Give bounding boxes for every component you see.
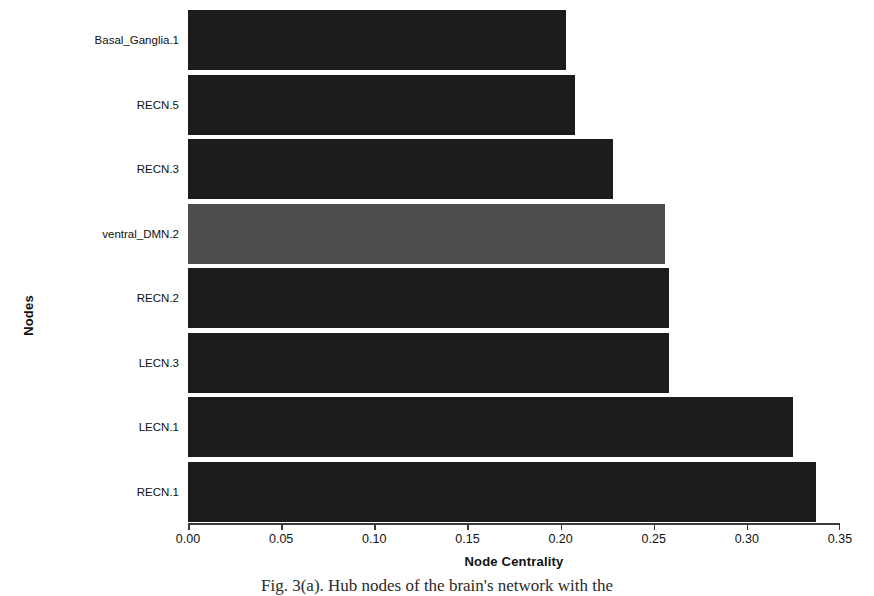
x-axis-tick xyxy=(839,523,841,530)
x-axis-title: Node Centrality xyxy=(188,554,840,569)
bar xyxy=(188,10,566,70)
x-axis-tick-label: 0.00 xyxy=(176,532,200,546)
bar xyxy=(188,75,575,135)
x-axis-tick-label: 0.25 xyxy=(642,532,666,546)
bar-row: RECN.2 xyxy=(188,268,840,328)
bar xyxy=(188,397,793,457)
x-axis-tick xyxy=(654,523,656,530)
category-label: RECN.5 xyxy=(137,75,179,135)
x-axis-tick xyxy=(561,523,563,530)
bar xyxy=(188,268,669,328)
bar xyxy=(188,139,613,199)
x-axis-tick-label: 0.10 xyxy=(362,532,386,546)
x-axis-tick-label: 0.15 xyxy=(455,532,479,546)
x-axis-tick-label: 0.35 xyxy=(828,532,852,546)
bar-row: RECN.5 xyxy=(188,75,840,135)
bar-row: LECN.1 xyxy=(188,397,840,457)
x-axis-tick-label: 0.05 xyxy=(269,532,293,546)
x-axis-tick-label: 0.30 xyxy=(735,532,759,546)
x-axis-line: 0.000.050.100.150.200.250.300.35 xyxy=(188,523,840,525)
category-label: Basal_Ganglia.1 xyxy=(95,10,179,70)
x-axis-tick xyxy=(467,523,469,530)
bar-row: RECN.3 xyxy=(188,139,840,199)
category-label: LECN.3 xyxy=(139,333,179,393)
x-axis-tick xyxy=(374,523,376,530)
bar xyxy=(188,333,669,393)
x-axis-tick xyxy=(188,523,190,530)
category-label: RECN.1 xyxy=(137,462,179,522)
figure-caption: Fig. 3(a). Hub nodes of the brain's netw… xyxy=(0,576,874,596)
x-axis-tick xyxy=(281,523,283,530)
category-label: RECN.3 xyxy=(137,139,179,199)
bar-row: LECN.3 xyxy=(188,333,840,393)
bar-row: RECN.1 xyxy=(188,462,840,522)
plot-area: Basal_Ganglia.1RECN.5RECN.3ventral_DMN.2… xyxy=(188,0,840,520)
category-label: RECN.2 xyxy=(137,268,179,328)
x-axis-tick-label: 0.20 xyxy=(548,532,572,546)
category-label: LECN.1 xyxy=(139,397,179,457)
x-axis-tick xyxy=(747,523,749,530)
bar xyxy=(188,204,665,264)
bar-row: Basal_Ganglia.1 xyxy=(188,10,840,70)
bar xyxy=(188,462,816,522)
y-axis-title: Nodes xyxy=(8,255,48,375)
category-label: ventral_DMN.2 xyxy=(102,204,179,264)
bar-row: ventral_DMN.2 xyxy=(188,204,840,264)
y-axis-title-text: Nodes xyxy=(21,295,36,336)
